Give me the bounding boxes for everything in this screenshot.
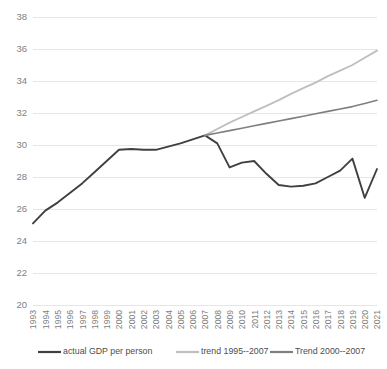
x-axis-tick-label: 2013 [274, 310, 284, 329]
x-axis-tick-label: 2015 [299, 310, 309, 329]
x-axis-tick-label: 2018 [336, 310, 346, 329]
x-axis-tick-label: 2007 [200, 310, 210, 329]
x-axis-tick-label: 2021 [372, 310, 382, 329]
legend-label: Trend 2000--2007 [295, 346, 365, 356]
x-axis-tick-label: 2004 [164, 310, 174, 329]
x-axis-tick-label: 1995 [53, 310, 63, 329]
x-axis-tick-label: 2009 [225, 310, 235, 329]
data-series-layer [33, 51, 377, 224]
y-axis-tick-label: 22 [16, 267, 27, 278]
x-axis-tick-labels: 1993199419951996199719981999200020012002… [28, 310, 382, 329]
y-axis-tick-labels: 20222426283032343638 [16, 11, 27, 310]
y-axis-tick-label: 36 [16, 43, 27, 54]
legend-label: trend 1995--2007 [201, 346, 269, 356]
x-axis-tick-label: 1997 [78, 310, 88, 329]
chart-canvas: 20222426283032343638 1993199419951996199… [0, 0, 387, 369]
x-axis-tick-label: 1993 [28, 310, 38, 329]
x-axis-tick-label: 2020 [360, 310, 370, 329]
y-axis-tick-label: 30 [16, 139, 27, 150]
y-axis-tick-label: 34 [16, 75, 27, 86]
series-line [33, 135, 377, 223]
y-axis-tick-label: 32 [16, 107, 27, 118]
x-axis-tick-label: 1999 [102, 310, 112, 329]
x-axis-tick-label: 1996 [65, 310, 75, 329]
x-axis-tick-label: 2002 [139, 310, 149, 329]
legend-label: actual GDP per person [63, 346, 152, 356]
series-line [205, 100, 377, 135]
x-axis-tick-label: 2016 [311, 310, 321, 329]
y-axis-tick-label: 24 [16, 235, 27, 246]
y-axis-tick-label: 28 [16, 171, 27, 182]
x-axis-tick-label: 2011 [250, 310, 260, 329]
x-axis-tick-label: 2008 [213, 310, 223, 329]
y-gridlines [33, 17, 377, 305]
y-axis-tick-label: 38 [16, 11, 27, 22]
x-axis-tick-label: 2010 [237, 310, 247, 329]
y-axis-tick-label: 26 [16, 203, 27, 214]
x-axis-tick-label: 2001 [127, 310, 137, 329]
chart-legend: actual GDP per persontrend 1995--2007Tre… [38, 346, 365, 356]
x-axis-tick-label: 2005 [176, 310, 186, 329]
x-axis-tick-label: 2012 [262, 310, 272, 329]
series-line [205, 51, 377, 136]
x-axis-tick-label: 2017 [323, 310, 333, 329]
gdp-per-person-chart: 20222426283032343638 1993199419951996199… [0, 0, 387, 369]
x-axis-tick-label: 2000 [114, 310, 124, 329]
x-axis-tick-label: 2014 [286, 310, 296, 329]
x-axis-tick-label: 1994 [41, 310, 51, 329]
y-axis-tick-label: 20 [16, 299, 27, 310]
x-axis-tick-label: 1998 [90, 310, 100, 329]
x-axis-tick-label: 2006 [188, 310, 198, 329]
x-axis-tick-label: 2019 [348, 310, 358, 329]
x-axis-tick-label: 2003 [151, 310, 161, 329]
